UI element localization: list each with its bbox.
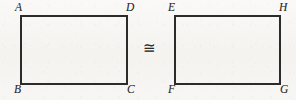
vertex-label-g: G [280,84,289,96]
vertex-label-d: D [126,2,135,14]
vertex-label-e: E [168,2,175,14]
figure-layer: A D B C E H F G ≅ [0,0,296,100]
geometry-figure-canvas: A D B C E H F G ≅ [0,0,296,100]
vertex-label-c: C [127,84,135,96]
vertex-label-b: B [14,84,21,96]
vertex-label-h: H [279,2,288,14]
vertex-label-a: A [15,2,22,14]
vertex-label-f: F [168,84,175,96]
congruent-to-symbol: ≅ [143,41,156,56]
